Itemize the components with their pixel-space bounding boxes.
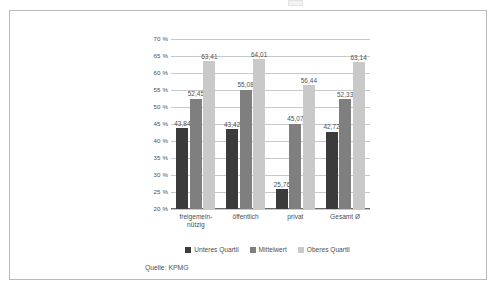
page-top-artifact [288, 0, 303, 6]
legend-label: Unteres Quartil [194, 247, 238, 254]
bar-value-label: 43,42 [224, 122, 241, 128]
bar: 64,01 [253, 59, 265, 209]
bar: 25,76 [276, 189, 288, 209]
bar: 55,08 [240, 90, 252, 209]
bar-value-label: 45,07 [287, 116, 304, 122]
figure-frame: 70 %65 %60 %55 %50 %45 %40 %35 %30 %25 %… [9, 10, 487, 280]
grouped-bar-chart: 70 %65 %60 %55 %50 %45 %40 %35 %30 %25 %… [135, 29, 380, 279]
bar-group: 43,8452,4563,41freigemein-nützig [171, 39, 221, 209]
y-axis-tick-label: 20 % [153, 206, 168, 212]
bar: 42,72 [326, 132, 338, 209]
y-axis-tick-label: 40 % [153, 138, 168, 144]
legend-swatch [250, 247, 256, 253]
y-axis-tick-label: 60 % [153, 70, 168, 76]
chart-legend: Unteres QuartilMittelwertOberes Quartil [155, 247, 380, 254]
legend-swatch [185, 247, 191, 253]
y-axis-tick-label: 50 % [153, 104, 168, 110]
gridline: 20 % [171, 209, 370, 210]
source-note: Quelle: KPMG [145, 265, 188, 272]
legend-swatch [298, 247, 304, 253]
x-axis-category-label: Gesamt Ø [330, 213, 360, 221]
bar-value-label: 63,14 [350, 55, 367, 61]
category-label-line: privat [287, 213, 303, 221]
legend-label: Oberes Quartil [307, 247, 350, 254]
x-axis-category-label: privat [287, 213, 303, 221]
bar: 56,44 [303, 85, 315, 209]
bar-value-label: 55,08 [237, 82, 254, 88]
bar-group: 42,7252,3363,14Gesamt Ø [320, 39, 370, 209]
x-axis-category-label: freigemein-nützig [179, 213, 212, 229]
bar-value-label: 42,72 [323, 124, 340, 130]
bar: 43,84 [176, 128, 188, 209]
bar-value-label: 56,44 [301, 78, 318, 84]
y-axis-tick-label: 65 % [153, 53, 168, 59]
bar-value-label: 25,76 [274, 182, 291, 188]
bar: 52,33 [339, 99, 351, 209]
category-label-line: Gesamt Ø [330, 213, 360, 221]
y-axis-tick-label: 45 % [153, 121, 168, 127]
category-label-line: freigemein- [179, 213, 212, 221]
figure-page: 70 %65 %60 %55 %50 %45 %40 %35 %30 %25 %… [0, 0, 497, 291]
bar: 52,45 [190, 99, 202, 209]
category-label-line: öffentlich [232, 213, 258, 221]
bar: 45,07 [289, 124, 301, 209]
bar-value-label: 52,33 [337, 92, 354, 98]
plot-area: 70 %65 %60 %55 %50 %45 %40 %35 %30 %25 %… [171, 39, 370, 209]
bar: 63,41 [203, 61, 215, 209]
bar: 63,14 [353, 62, 365, 209]
y-axis-tick-label: 35 % [153, 155, 168, 161]
x-axis-category-label: öffentlich [232, 213, 258, 221]
category-label-line: nützig [179, 221, 212, 229]
y-axis-tick-label: 30 % [153, 172, 168, 178]
bar-value-label: 52,45 [188, 91, 205, 97]
bar-value-label: 63,41 [201, 54, 218, 60]
y-axis-tick-label: 70 % [153, 36, 168, 42]
bar-value-label: 43,84 [174, 121, 191, 127]
legend-label: Mittelwert [259, 247, 287, 254]
legend-item: Mittelwert [250, 247, 287, 254]
y-axis-tick-label: 25 % [153, 189, 168, 195]
legend-item: Oberes Quartil [298, 247, 350, 254]
bar-group: 43,4255,0864,01öffentlich [221, 39, 271, 209]
bar-group: 25,7645,0756,44privat [271, 39, 321, 209]
bar: 43,42 [226, 129, 238, 209]
legend-item: Unteres Quartil [185, 247, 238, 254]
y-axis-tick-label: 55 % [153, 87, 168, 93]
bar-value-label: 64,01 [251, 52, 268, 58]
